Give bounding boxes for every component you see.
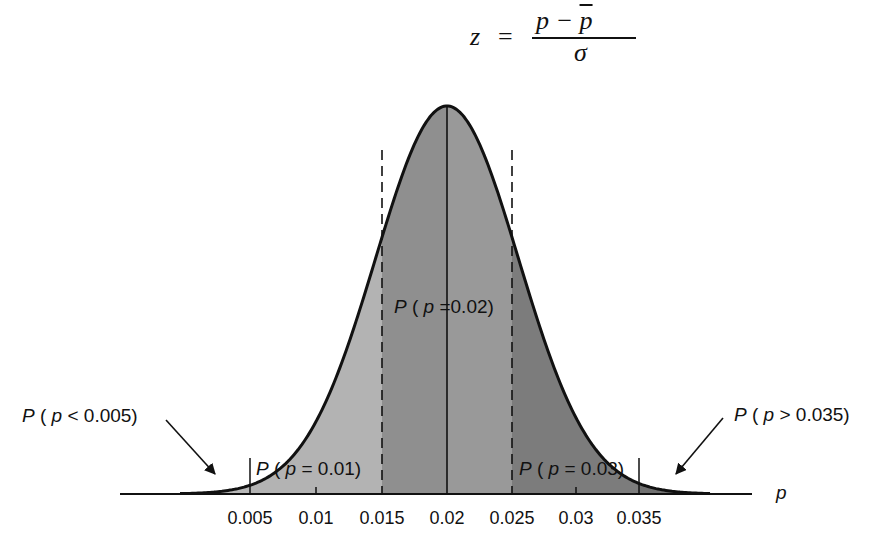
arrow-right-tail — [676, 418, 723, 474]
region-p-0.01 — [250, 90, 382, 495]
formula-p-bar: p — [580, 6, 593, 35]
x-tick-label: 0.01 — [298, 508, 333, 529]
formula-equals: = — [498, 22, 513, 52]
x-tick-label: 0.03 — [558, 508, 593, 529]
region-p-0.02-right — [447, 90, 512, 495]
formula-denominator: σ — [574, 38, 587, 68]
x-tick-label: 0.025 — [489, 508, 534, 529]
formula-numerator: p − p — [536, 6, 593, 36]
arrow-left-tail — [166, 420, 215, 474]
region-p-0.03 — [512, 90, 639, 495]
x-axis-label: p — [776, 482, 787, 504]
region-p-0.02-left — [382, 90, 447, 495]
formula-numerator-p: p − — [536, 6, 580, 35]
label-right-tail: P ( p > 0.035) — [734, 404, 850, 426]
region-left-tail — [120, 90, 250, 495]
label-region-p-0.01: P ( p = 0.01) — [256, 458, 361, 480]
shaded-regions — [120, 90, 759, 495]
x-tick-label: 0.005 — [227, 508, 272, 529]
label-left-tail: P ( p < 0.005) — [22, 405, 138, 427]
x-tick-label: 0.015 — [359, 508, 404, 529]
label-region-p-0.03: P ( p = 0.03) — [519, 458, 624, 480]
normal-distribution-chart — [0, 0, 895, 548]
formula-z: z — [470, 22, 480, 52]
x-tick-label: 0.02 — [429, 508, 464, 529]
x-tick-label: 0.035 — [616, 508, 661, 529]
region-right-tail — [639, 90, 759, 495]
label-region-p-0.02: P ( p =0.02) — [394, 296, 494, 318]
